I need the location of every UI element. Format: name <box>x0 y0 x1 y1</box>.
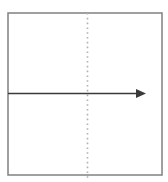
figure-canvas <box>0 0 168 182</box>
canvas-background <box>0 0 168 182</box>
diagram-svg <box>0 0 168 182</box>
